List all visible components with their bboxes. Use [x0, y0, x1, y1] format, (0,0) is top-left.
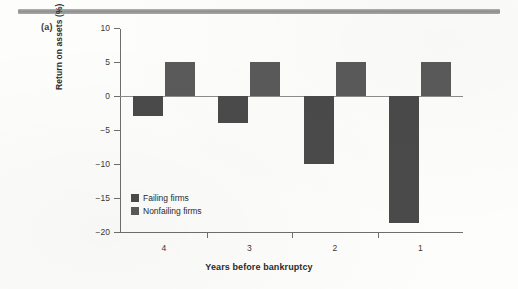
x-tick-label: 1: [400, 243, 440, 253]
y-tick-mark: [114, 198, 120, 199]
panel-label: (a): [41, 22, 53, 32]
legend-label: Nonfailing firms: [143, 206, 202, 216]
figure-panel-a: (a) Return on assets (%) 1050−5−10−15−20…: [0, 0, 518, 289]
x-tick-mark: [207, 232, 208, 238]
x-tick-label: 4: [144, 243, 184, 253]
y-tick-mark: [114, 232, 120, 233]
x-tick-mark: [292, 232, 293, 238]
y-tick-label: −10: [68, 159, 110, 169]
y-axis-title: Return on assets (%): [54, 3, 64, 90]
y-tick-mark: [114, 62, 120, 63]
x-tick-label: 2: [315, 243, 355, 253]
bar-failing-firms-year-3: [218, 96, 248, 123]
y-tick-label: −20: [68, 227, 110, 237]
legend-item: Failing firms: [131, 191, 202, 204]
y-axis-title-wrap: Return on assets (%): [60, 0, 112, 289]
bar-failing-firms-year-4: [133, 96, 163, 116]
legend-swatch-icon: [131, 207, 139, 215]
bar-nonfailing-firms-year-1: [421, 62, 451, 96]
x-axis-title: Years before bankruptcy: [0, 262, 518, 272]
y-tick-mark: [114, 96, 120, 97]
y-tick-mark: [114, 130, 120, 131]
legend-item: Nonfailing firms: [131, 204, 202, 217]
bar-nonfailing-firms-year-4: [165, 62, 195, 96]
y-tick-label: −5: [68, 125, 110, 135]
x-tick-label: 3: [229, 243, 269, 253]
y-tick-mark: [114, 164, 120, 165]
bar-failing-firms-year-2: [304, 96, 334, 164]
x-tick-mark: [378, 232, 379, 238]
y-tick-mark: [114, 28, 120, 29]
chart-legend: Failing firmsNonfailing firms: [131, 191, 202, 217]
y-tick-label: 10: [68, 23, 110, 33]
y-tick-label: −15: [68, 193, 110, 203]
legend-swatch-icon: [131, 194, 139, 202]
bar-nonfailing-firms-year-2: [336, 62, 366, 96]
legend-label: Failing firms: [143, 193, 189, 203]
y-tick-label: 5: [68, 57, 110, 67]
bar-failing-firms-year-1: [389, 96, 419, 223]
bar-nonfailing-firms-year-3: [250, 62, 280, 96]
y-tick-label: 0: [68, 91, 110, 101]
